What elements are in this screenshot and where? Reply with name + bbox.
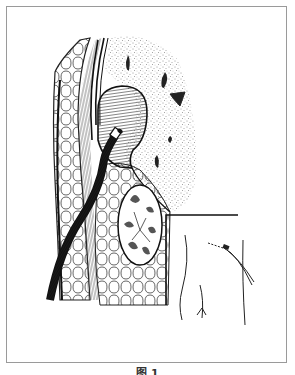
kidney-section xyxy=(118,185,162,265)
figure-caption: 图 1 xyxy=(0,366,295,375)
inset-body-surface xyxy=(166,215,254,325)
medical-illustration xyxy=(0,0,295,375)
